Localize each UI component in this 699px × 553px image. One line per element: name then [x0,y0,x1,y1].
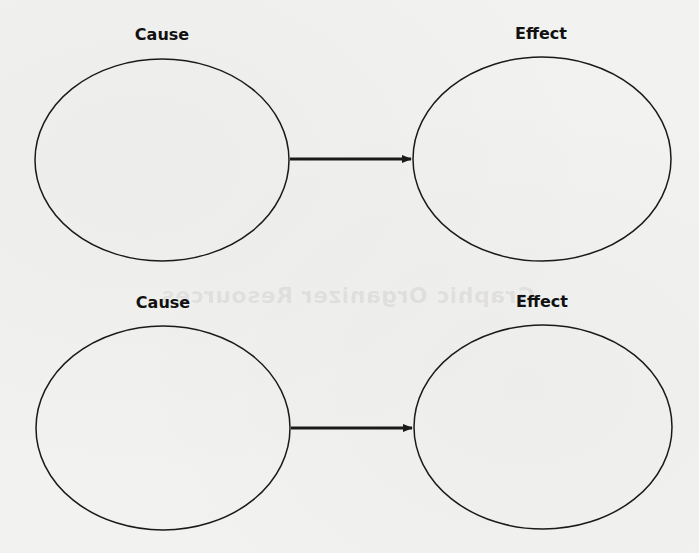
effect-ellipse-2[interactable] [414,325,672,529]
effect-ellipse-1[interactable] [413,57,671,261]
cause-ellipse-1[interactable] [35,59,289,261]
cause-ellipse-2[interactable] [36,326,290,530]
